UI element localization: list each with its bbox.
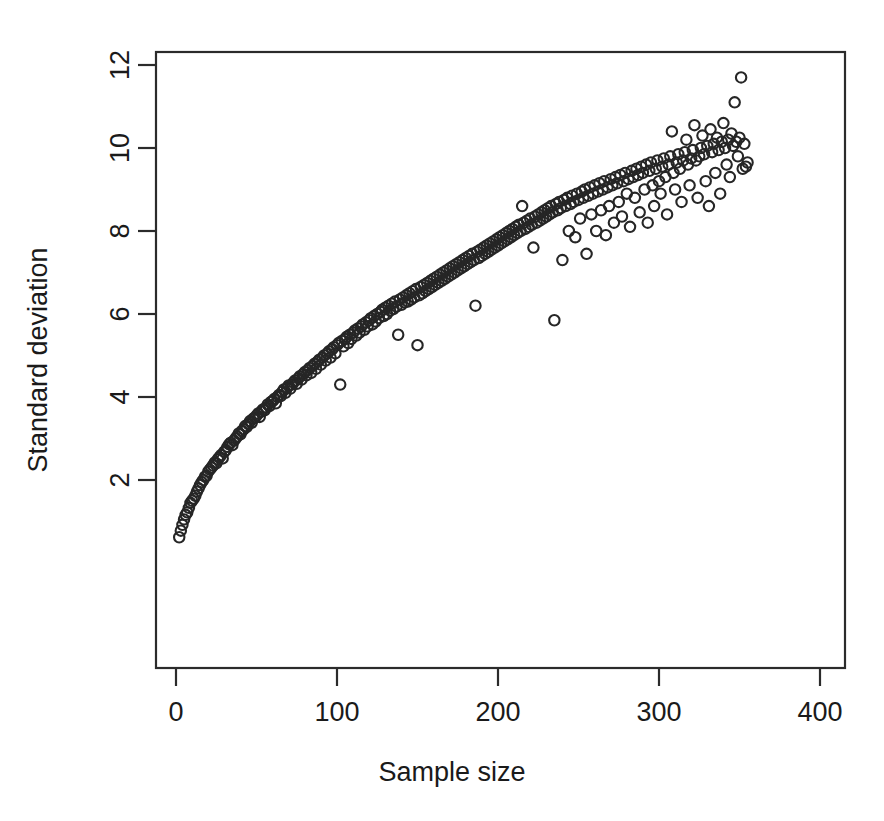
y-axis-tick-label: 8	[105, 223, 135, 238]
figure-container: 0100200300400 24681012 Sample size Stand…	[0, 0, 884, 821]
plot-background	[0, 0, 884, 821]
y-axis-tick-label: 2	[105, 472, 135, 487]
y-axis-title: Standard deviation	[23, 247, 53, 472]
x-axis-tick-label: 0	[168, 697, 183, 727]
scatter-plot: 0100200300400 24681012 Sample size Stand…	[0, 0, 884, 821]
x-axis-tick-label: 200	[475, 697, 520, 727]
y-axis-tick-label: 6	[105, 306, 135, 321]
x-axis-tick-label: 300	[636, 697, 681, 727]
x-axis-tick-label: 400	[797, 697, 842, 727]
y-axis-tick-label: 10	[105, 133, 135, 163]
x-axis-title: Sample size	[378, 757, 525, 787]
x-axis-tick-label: 100	[314, 697, 359, 727]
y-axis-tick-label: 12	[105, 50, 135, 80]
y-axis-tick-label: 4	[105, 389, 135, 404]
